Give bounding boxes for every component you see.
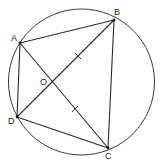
point-b	[113, 19, 116, 22]
segment-ab	[20, 20, 114, 43]
circumcircle	[9, 9, 155, 155]
segment-bc	[108, 20, 114, 148]
diagonal-ac	[20, 43, 108, 148]
label-o: O	[40, 77, 47, 87]
label-b: B	[114, 7, 120, 17]
diagonal-bd	[17, 20, 114, 117]
label-d: D	[8, 116, 15, 126]
point-d	[16, 116, 19, 119]
label-c: C	[105, 151, 112, 161]
label-a: A	[11, 33, 17, 43]
point-a	[19, 42, 22, 45]
point-c	[107, 147, 110, 150]
cyclic-quadrilateral-diagram: A B C D O	[0, 0, 161, 162]
segment-da	[17, 43, 20, 117]
